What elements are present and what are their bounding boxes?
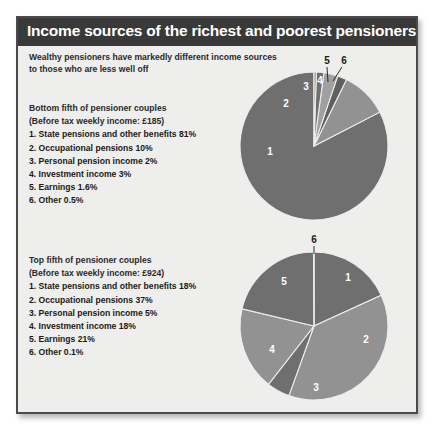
pie-slice-label: 2 [363,334,369,345]
legend-block-bottom-fifth: Bottom fifth of pensioner couples (Befor… [29,102,214,208]
list-item: 2. Occupational pensions 10% [29,142,214,155]
list-item: 3. Personal pension income 5% [29,307,214,320]
list-item: 1. State pensions and other benefits 18% [29,280,214,293]
pie-chart-top-fifth: 123456 [214,228,414,408]
list-item: 3. Personal pension income 2% [29,155,214,168]
chart-subtitle: Wealthy pensioners have markedly differe… [29,51,214,76]
pie-chart-bottom-fifth: 123456 [214,56,414,226]
list-item: 6. Other 0.1% [29,346,214,359]
pie-slice-label: 1 [345,272,351,283]
subtitle-line-1: Wealthy pensioners have markedly differe… [29,51,214,63]
pie-slice-label: 5 [281,276,287,287]
chart-body: Wealthy pensioners have markedly differe… [18,46,416,412]
subtitle-line-2: to those who are less well off [29,63,214,75]
list-item: 5. Earnings 1.6% [29,181,214,194]
pie-slice-label: 2 [283,98,289,109]
chart-header-bar: Income sources of the richest and poores… [18,18,416,46]
pie-svg-bottom: 123456 [214,56,414,226]
pie-slice-label: 3 [303,81,309,92]
page-title: Income sources of the richest and poores… [27,22,416,40]
chart-panel: Income sources of the richest and poores… [16,16,418,414]
list-item: 1. State pensions and other benefits 81% [29,128,214,141]
pie-slice-label: 4 [269,344,275,355]
pie-slice-label: 3 [313,382,319,393]
pie-slice-label: 5 [324,56,330,66]
legend-income-note-bottom: (Before tax weekly income: £185) [29,115,214,128]
list-item: 4. Investment income 3% [29,168,214,181]
legend-heading-top: Top fifth of pensioner couples [29,254,214,267]
legend-heading-bottom: Bottom fifth of pensioner couples [29,102,214,115]
legend-income-note-top: (Before tax weekly income: £924) [29,267,214,280]
pie-slice-label: 6 [341,56,347,66]
list-item: 4. Investment income 18% [29,320,214,333]
pie-slice-label: 4 [317,75,323,86]
pie-slice-label: 1 [267,146,273,157]
legend-list-bottom: 1. State pensions and other benefits 81%… [29,128,214,207]
list-item: 2. Occupational pensions 37% [29,294,214,307]
legend-list-top: 1. State pensions and other benefits 18%… [29,280,214,359]
pie-slice-label: 6 [311,234,317,245]
list-item: 5. Earnings 21% [29,333,214,346]
legend-block-top-fifth: Top fifth of pensioner couples (Before t… [29,254,214,360]
pie-svg-top: 123456 [214,228,414,408]
list-item: 6. Other 0.5% [29,194,214,207]
